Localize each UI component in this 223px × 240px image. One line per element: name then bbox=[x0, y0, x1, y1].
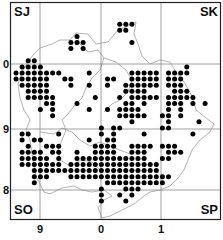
record-dot bbox=[20, 132, 25, 137]
record-dot bbox=[26, 95, 31, 100]
record-dot bbox=[38, 174, 43, 179]
record-dot bbox=[14, 71, 19, 76]
record-dot bbox=[172, 144, 177, 149]
record-dot bbox=[142, 132, 147, 137]
record-dot bbox=[172, 95, 177, 100]
record-dot bbox=[166, 144, 171, 149]
record-dot bbox=[38, 64, 43, 69]
record-dot bbox=[50, 71, 55, 76]
record-dot bbox=[178, 83, 183, 88]
record-dot bbox=[26, 162, 31, 167]
record-dot bbox=[129, 107, 134, 112]
record-dot bbox=[68, 168, 73, 173]
record-dot bbox=[26, 77, 31, 82]
record-dot bbox=[68, 83, 73, 88]
record-dot bbox=[136, 71, 141, 76]
record-dot bbox=[117, 22, 122, 27]
record-dot bbox=[75, 34, 80, 39]
record-dot bbox=[50, 107, 55, 112]
record-dot bbox=[56, 71, 61, 76]
record-dot bbox=[148, 180, 153, 185]
record-dot bbox=[105, 168, 110, 173]
record-dot bbox=[105, 174, 110, 179]
record-dot bbox=[117, 95, 122, 100]
record-dot bbox=[32, 77, 37, 82]
record-dot bbox=[50, 150, 55, 155]
record-dot bbox=[68, 46, 73, 51]
y-axis-label-0: 0 bbox=[3, 58, 9, 70]
record-dot bbox=[75, 101, 80, 106]
record-dot bbox=[68, 162, 73, 167]
record-dot bbox=[129, 113, 134, 118]
record-dot bbox=[129, 168, 134, 173]
record-dot bbox=[123, 107, 128, 112]
county-boundaries bbox=[18, 22, 214, 218]
record-dot bbox=[93, 168, 98, 173]
record-dot bbox=[123, 89, 128, 94]
record-dot bbox=[184, 71, 189, 76]
record-dot bbox=[166, 125, 171, 130]
record-dot bbox=[136, 107, 141, 112]
record-dot bbox=[148, 95, 153, 100]
record-dot bbox=[160, 113, 165, 118]
record-dot bbox=[81, 46, 86, 51]
record-dot bbox=[20, 162, 25, 167]
record-dot bbox=[142, 150, 147, 155]
record-dot bbox=[32, 83, 37, 88]
record-dot bbox=[166, 156, 171, 161]
record-dot bbox=[105, 162, 110, 167]
record-dot bbox=[172, 83, 177, 88]
record-dot bbox=[184, 64, 189, 69]
record-dot bbox=[105, 77, 110, 82]
record-dot bbox=[142, 83, 147, 88]
record-dot bbox=[75, 162, 80, 167]
record-dot bbox=[32, 174, 37, 179]
record-dot bbox=[123, 186, 128, 191]
record-dot bbox=[166, 95, 171, 100]
record-dot bbox=[172, 89, 177, 94]
record-dot bbox=[117, 113, 122, 118]
record-dot bbox=[44, 71, 49, 76]
record-dot bbox=[136, 174, 141, 179]
record-dot bbox=[75, 168, 80, 173]
record-dot bbox=[111, 150, 116, 155]
record-dot bbox=[87, 107, 92, 112]
record-dot bbox=[50, 162, 55, 167]
record-dot bbox=[166, 113, 171, 118]
record-dot bbox=[166, 71, 171, 76]
record-dot bbox=[148, 168, 153, 173]
record-dot bbox=[129, 150, 134, 155]
record-dot bbox=[160, 180, 165, 185]
record-dot bbox=[166, 119, 171, 124]
record-dot bbox=[117, 180, 122, 185]
record-dot bbox=[56, 168, 61, 173]
record-dot bbox=[190, 95, 195, 100]
record-dot bbox=[136, 150, 141, 155]
record-dot bbox=[32, 58, 37, 63]
record-dot bbox=[38, 95, 43, 100]
record-dot bbox=[75, 40, 80, 45]
record-dot bbox=[20, 64, 25, 69]
record-dot bbox=[142, 174, 147, 179]
record-dot bbox=[123, 199, 128, 204]
record-dot bbox=[87, 174, 92, 179]
record-dot bbox=[123, 22, 128, 27]
record-dot bbox=[178, 150, 183, 155]
record-dot bbox=[50, 95, 55, 100]
record-dot bbox=[32, 156, 37, 161]
record-dot bbox=[111, 174, 116, 179]
region-outline bbox=[18, 22, 214, 218]
internal-boundary-1 bbox=[62, 33, 104, 120]
record-dot bbox=[99, 125, 104, 130]
record-dot bbox=[148, 144, 153, 149]
record-dot bbox=[26, 71, 31, 76]
record-dot bbox=[129, 95, 134, 100]
record-dot bbox=[160, 125, 165, 130]
record-dot bbox=[81, 156, 86, 161]
record-dot bbox=[20, 71, 25, 76]
record-dot bbox=[154, 180, 159, 185]
record-dot bbox=[99, 193, 104, 198]
record-dot bbox=[123, 156, 128, 161]
record-dot bbox=[129, 119, 134, 124]
record-dot bbox=[81, 40, 86, 45]
